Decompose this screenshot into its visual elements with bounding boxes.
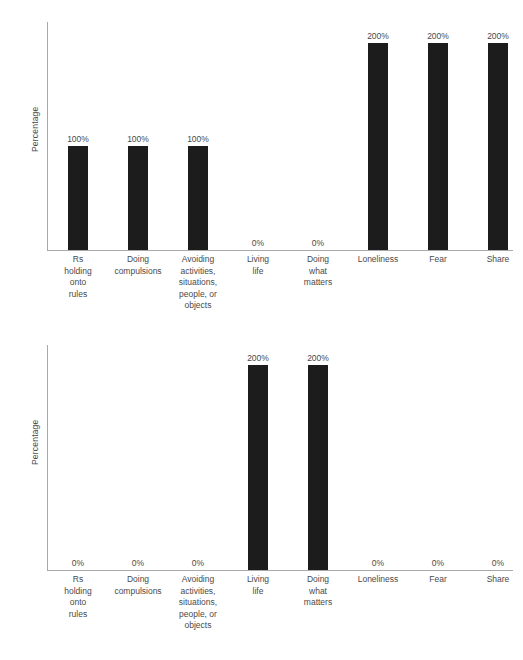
- bar[interactable]: [128, 146, 148, 250]
- bar-value-label: 200%: [367, 31, 389, 41]
- bar-slot: 0%: [348, 345, 408, 570]
- bar-slot: 200%: [228, 345, 288, 570]
- bar-value-label: 0%: [492, 558, 504, 568]
- cropped-caption-sliver: [8, 654, 308, 660]
- bar-slot: 0%: [408, 345, 468, 570]
- bar-slot: 200%: [288, 345, 348, 570]
- x-axis-tick-label: Share: [468, 254, 523, 312]
- bar-value-label: 0%: [432, 558, 444, 568]
- bar[interactable]: [188, 146, 208, 250]
- x-axis-line: [47, 570, 513, 571]
- chart-bottom: Percentage 0%0%0%200%200%0%0%0% Rs holdi…: [0, 330, 523, 660]
- bar-value-label: 200%: [307, 353, 329, 363]
- bar-slot: 0%: [108, 345, 168, 570]
- bar-slot: 200%: [348, 22, 408, 250]
- y-axis-title: Percentage: [30, 420, 40, 465]
- bar-value-label: 200%: [487, 31, 509, 41]
- x-axis-tick-label: Doing compulsions: [108, 254, 168, 312]
- bar-value-label: 0%: [312, 238, 324, 248]
- bar[interactable]: [428, 43, 448, 250]
- bar[interactable]: [488, 43, 508, 250]
- bar-value-label: 0%: [252, 238, 264, 248]
- bar-slot: 0%: [228, 22, 288, 250]
- plot-area: 0%0%0%200%200%0%0%0%: [48, 345, 523, 570]
- x-axis-tick-label: Loneliness: [348, 254, 408, 312]
- bar-slot: 0%: [48, 345, 108, 570]
- x-axis-tick-label: Fear: [408, 574, 468, 632]
- bar-slot: 0%: [288, 22, 348, 250]
- x-axis-tick-label: Fear: [408, 254, 468, 312]
- bar-value-label: 0%: [372, 558, 384, 568]
- x-axis-tick-label: Doing what matters: [288, 254, 348, 312]
- bar-value-label: 0%: [132, 558, 144, 568]
- x-axis-tick-label: Doing compulsions: [108, 574, 168, 632]
- x-axis-tick-label: Rs holding onto rules: [48, 574, 108, 632]
- x-axis-tick-label: Living life: [228, 254, 288, 312]
- x-axis-line: [47, 250, 513, 251]
- bar[interactable]: [308, 365, 328, 570]
- bar[interactable]: [368, 43, 388, 250]
- x-axis-tick-label: Avoiding activities, situations, people,…: [168, 254, 228, 312]
- bar-slot: 200%: [468, 22, 523, 250]
- bar-value-label: 100%: [67, 134, 89, 144]
- bar[interactable]: [248, 365, 268, 570]
- bar[interactable]: [68, 146, 88, 250]
- bar-slot: 100%: [168, 22, 228, 250]
- bar-value-label: 0%: [192, 558, 204, 568]
- bar-value-label: 200%: [247, 353, 269, 363]
- bar-value-label: 100%: [127, 134, 149, 144]
- x-axis-tick-labels: Rs holding onto rulesDoing compulsionsAv…: [48, 574, 523, 632]
- plot-area: 100%100%100%0%0%200%200%200%: [48, 22, 523, 250]
- bar-value-label: 0%: [72, 558, 84, 568]
- bar-slot: 100%: [48, 22, 108, 250]
- bar-slot: 0%: [468, 345, 523, 570]
- bar-slot: 0%: [168, 345, 228, 570]
- x-axis-tick-label: Rs holding onto rules: [48, 254, 108, 312]
- bar-slot: 100%: [108, 22, 168, 250]
- x-axis-tick-label: Loneliness: [348, 574, 408, 632]
- x-axis-tick-label: Living life: [228, 574, 288, 632]
- chart-top: Percentage 100%100%100%0%0%200%200%200% …: [0, 0, 523, 330]
- x-axis-tick-label: Doing what matters: [288, 574, 348, 632]
- bar-slot: 200%: [408, 22, 468, 250]
- bar-value-label: 100%: [187, 134, 209, 144]
- x-axis-tick-labels: Rs holding onto rulesDoing compulsionsAv…: [48, 254, 523, 312]
- bar-value-label: 200%: [427, 31, 449, 41]
- x-axis-tick-label: Share: [468, 574, 523, 632]
- y-axis-title: Percentage: [30, 107, 40, 152]
- x-axis-tick-label: Avoiding activities, situations, people,…: [168, 574, 228, 632]
